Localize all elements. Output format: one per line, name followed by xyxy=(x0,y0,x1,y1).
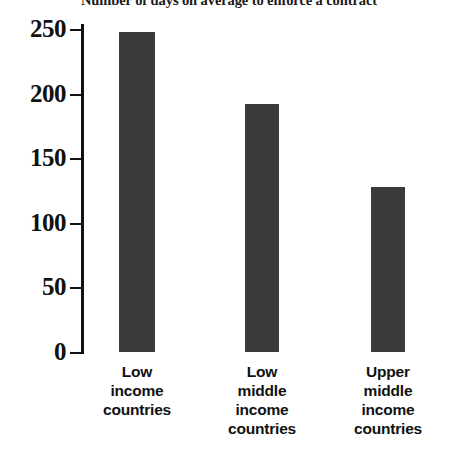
x-label-line: middle xyxy=(202,381,322,400)
bar-chart: Number of days on average to enforce a c… xyxy=(0,0,458,459)
x-label-low-middle-income-countries: Low middle income countries xyxy=(202,362,322,438)
y-tick-label-0: 0 xyxy=(0,339,66,364)
y-tick-label-250: 250 xyxy=(0,16,66,41)
x-label-line: countries xyxy=(77,400,197,419)
y-tick-0 xyxy=(70,352,81,354)
y-tick-100 xyxy=(70,223,81,225)
y-tick-250 xyxy=(70,29,81,31)
y-tick-150 xyxy=(70,158,81,160)
x-label-line: Upper xyxy=(328,362,448,381)
y-axis-line xyxy=(81,24,84,354)
x-label-line: countries xyxy=(328,419,448,438)
x-label-line: Low xyxy=(202,362,322,381)
x-label-line: income xyxy=(77,381,197,400)
plot-area: 250 200 150 100 50 0 Low income countrie… xyxy=(0,0,458,459)
x-label-line: Low xyxy=(77,362,197,381)
y-tick-label-200: 200 xyxy=(0,81,66,106)
bar-upper-middle-income-countries xyxy=(371,187,405,352)
x-label-line: middle xyxy=(328,381,448,400)
y-tick-label-150: 150 xyxy=(0,145,66,170)
x-label-upper-middle-income-countries: Upper middle income countries xyxy=(328,362,448,438)
y-tick-200 xyxy=(70,94,81,96)
y-tick-label-50: 50 xyxy=(0,274,66,299)
bar-low-income-countries xyxy=(119,32,155,352)
x-label-line: income xyxy=(328,400,448,419)
bar-low-middle-income-countries xyxy=(245,104,279,352)
x-label-line: income xyxy=(202,400,322,419)
y-tick-label-100: 100 xyxy=(0,210,66,235)
x-label-low-income-countries: Low income countries xyxy=(77,362,197,419)
y-tick-50 xyxy=(70,287,81,289)
x-label-line: countries xyxy=(202,419,322,438)
